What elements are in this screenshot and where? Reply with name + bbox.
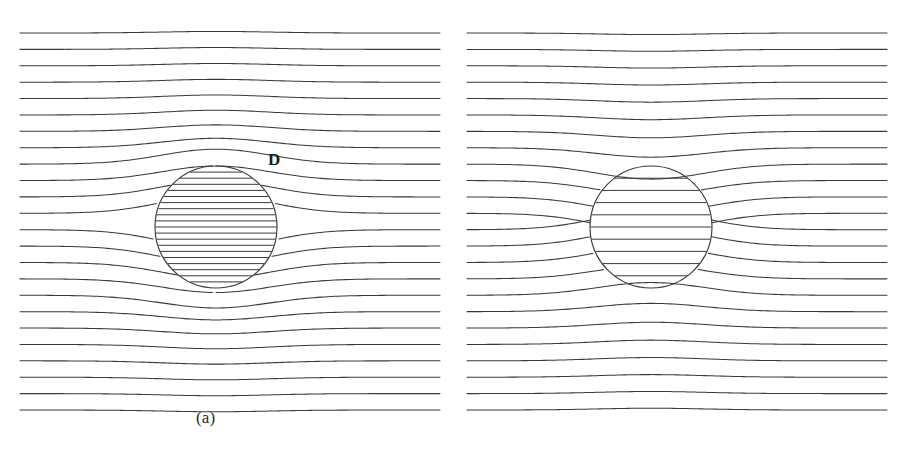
field-line bbox=[276, 204, 441, 214]
field-line bbox=[20, 31, 440, 33]
field-line bbox=[467, 253, 593, 262]
field-line bbox=[467, 82, 887, 85]
field-line bbox=[702, 181, 888, 190]
panel-a: (a) D bbox=[0, 0, 453, 452]
field-line bbox=[20, 410, 440, 412]
field-line bbox=[20, 230, 153, 239]
field-line bbox=[20, 110, 440, 115]
field-line bbox=[20, 246, 160, 256]
field-line bbox=[467, 148, 887, 157]
field-line bbox=[20, 263, 178, 275]
field-line bbox=[712, 220, 887, 230]
field-line bbox=[20, 95, 440, 99]
field-line bbox=[20, 185, 171, 197]
field-line bbox=[467, 391, 887, 393]
field-line bbox=[272, 246, 440, 256]
field-line bbox=[20, 204, 157, 214]
field-line bbox=[467, 66, 887, 68]
field-line bbox=[20, 125, 440, 131]
panel-a-caption: (a) bbox=[196, 408, 215, 428]
field-line bbox=[20, 312, 440, 320]
field-line bbox=[712, 213, 887, 222]
field-line bbox=[467, 131, 887, 137]
panel-b-fieldlines bbox=[453, 0, 906, 452]
field-line bbox=[709, 253, 888, 262]
field-line bbox=[467, 408, 887, 410]
field-line bbox=[467, 213, 590, 222]
field-line bbox=[20, 344, 440, 348]
field-line bbox=[216, 279, 440, 293]
field-line bbox=[467, 303, 887, 311]
field-line bbox=[467, 283, 887, 296]
field-line bbox=[467, 220, 590, 229]
field-line bbox=[20, 394, 440, 396]
field-line bbox=[467, 340, 887, 344]
field-line bbox=[712, 237, 887, 246]
field-line bbox=[20, 328, 440, 334]
field-line bbox=[467, 181, 600, 190]
field-line bbox=[709, 197, 888, 206]
field-line bbox=[20, 64, 440, 66]
field-line bbox=[467, 270, 604, 279]
field-line bbox=[20, 361, 440, 364]
field-line bbox=[20, 377, 440, 380]
field-line bbox=[467, 237, 590, 246]
field-line bbox=[467, 99, 887, 103]
field-line bbox=[467, 49, 887, 51]
field-line bbox=[262, 185, 441, 197]
figure-container: (a) D (b) ϵ0E bbox=[0, 0, 906, 452]
panel-b: (b) ϵ0E bbox=[453, 0, 906, 452]
panel-a-fieldlines bbox=[0, 0, 453, 452]
field-line bbox=[467, 358, 887, 361]
field-line bbox=[467, 322, 887, 328]
field-label-d: D bbox=[268, 150, 280, 170]
field-line bbox=[279, 230, 440, 239]
field-line bbox=[20, 295, 440, 308]
field-line bbox=[467, 33, 887, 35]
field-line bbox=[698, 270, 887, 279]
field-line bbox=[20, 279, 213, 293]
field-line bbox=[20, 149, 440, 164]
field-line bbox=[20, 138, 440, 147]
field-line bbox=[255, 262, 441, 274]
field-line bbox=[467, 375, 887, 378]
field-line bbox=[20, 48, 440, 50]
field-line bbox=[467, 115, 887, 120]
field-line bbox=[467, 197, 593, 206]
field-line bbox=[20, 79, 440, 82]
